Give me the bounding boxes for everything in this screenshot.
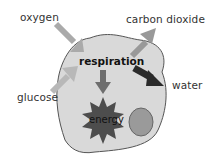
oxygen-arrow-icon [56,24,84,52]
label-energy: energy [89,114,124,125]
nucleus [129,108,153,136]
label-carbon-dioxide: carbon dioxide [126,13,205,25]
label-oxygen: oxygen [20,11,59,23]
label-respiration: respiration [79,55,144,67]
label-glucose: glucose [17,91,58,103]
label-water: water [172,79,202,91]
